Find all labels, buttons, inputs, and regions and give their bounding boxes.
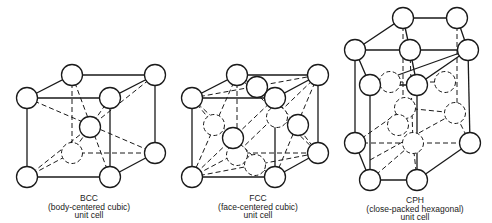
fcc-atom-face-right [288, 115, 309, 136]
crystal-structures-diagram [0, 0, 492, 223]
cph-atom-top [360, 75, 381, 96]
bcc-unit-cell-label: unit cell [9, 211, 169, 220]
fcc-unit-cell [182, 65, 329, 188]
cph-unit-cell [345, 8, 481, 191]
bcc-atom-corner [17, 88, 38, 109]
fcc-atom-face-hidden [204, 115, 225, 136]
fcc-caption: FCC (face-centered cubic) unit cell [178, 194, 338, 220]
bcc-atom-corner [62, 65, 83, 86]
cph-atom-bottom [345, 133, 366, 154]
bcc-atom-corner [145, 143, 166, 164]
cph-atom-mid-hidden [435, 72, 456, 93]
fcc-atom-face-hidden [267, 107, 288, 128]
cph-atom-top [393, 8, 414, 29]
cph-atom-top [447, 8, 468, 29]
cph-atom-top [407, 75, 428, 96]
fcc-atom-corner [265, 167, 286, 188]
cph-atom-top [345, 40, 366, 61]
bcc-atom-corner [145, 65, 166, 86]
cph-unit-cell-label: unit cell [335, 213, 492, 222]
bcc-atom-corner [17, 167, 38, 188]
fcc-atom-face-hidden [245, 155, 266, 176]
fcc-atom-face-front [223, 128, 244, 149]
fcc-atom-corner [308, 65, 329, 86]
cph-atom-bottom [360, 170, 381, 191]
fcc-atom-corner [227, 65, 248, 86]
bcc-caption: BCC (body-centered cubic) unit cell [9, 194, 169, 220]
cph-atom-mid-hidden [445, 103, 466, 124]
cph-atom-mid-hidden [380, 72, 401, 93]
fcc-atom-corner [265, 88, 286, 109]
fcc-unit-cell-label: unit cell [178, 211, 338, 220]
bcc-atom-body-center [80, 117, 101, 138]
fcc-atom-corner [182, 88, 203, 109]
fcc-atom-face-top [247, 77, 268, 98]
cph-atom-bottom-center [403, 133, 424, 154]
fcc-atom-corner [308, 143, 329, 164]
fcc-atom-corner [182, 167, 203, 188]
bcc-unit-cell [17, 65, 166, 188]
cph-caption: CPH (close-packed hexagonal) unit cell [335, 196, 492, 222]
cph-atom-bottom [460, 133, 481, 154]
cph-atom-mid-hidden [388, 115, 409, 136]
bcc-atom-corner [100, 88, 121, 109]
cph-atom-top-center [400, 40, 421, 61]
cph-atom-bottom [407, 170, 428, 191]
cph-atom-top [458, 40, 479, 61]
bcc-atom-hidden [62, 143, 83, 164]
bcc-atom-corner [100, 167, 121, 188]
